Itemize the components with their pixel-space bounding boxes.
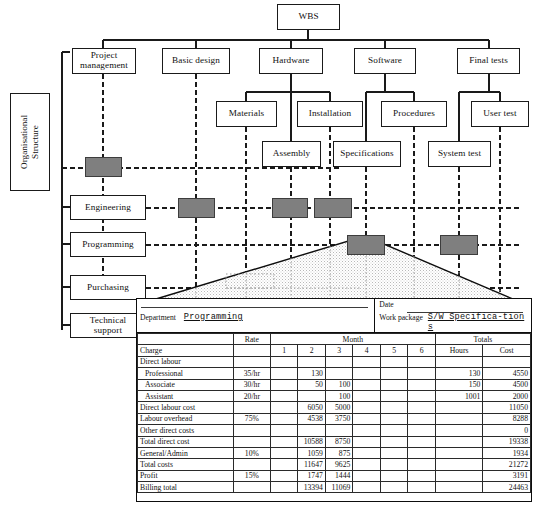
row-cost[interactable]: 1934 <box>483 447 531 458</box>
matrix-cell[interactable] <box>178 198 215 218</box>
row-cost[interactable]: 11050 <box>483 402 531 413</box>
row-rate[interactable] <box>233 356 270 367</box>
row-month-6[interactable] <box>408 447 436 458</box>
row-month-5[interactable] <box>380 470 408 481</box>
row-rate[interactable]: 30/hr <box>233 379 270 390</box>
row-hours[interactable] <box>435 447 483 458</box>
row-hours[interactable]: 1001 <box>435 390 483 401</box>
row-month-3[interactable]: 3750 <box>325 413 353 424</box>
row-month-4[interactable] <box>353 368 381 379</box>
row-month-2[interactable]: 130 <box>298 368 326 379</box>
row-month-4[interactable] <box>353 447 381 458</box>
wbs-root-node[interactable]: WBS <box>277 4 340 30</box>
row-cost[interactable]: 2000 <box>483 390 531 401</box>
row-cost[interactable]: 0 <box>483 425 531 436</box>
row-month-1[interactable] <box>270 436 298 447</box>
row-hours[interactable] <box>435 482 483 493</box>
row-cost[interactable]: 3191 <box>483 470 531 481</box>
row-hours[interactable] <box>435 436 483 447</box>
wbs-node-basic-design[interactable]: Basic design <box>162 48 230 74</box>
row-month-4[interactable] <box>353 436 381 447</box>
row-month-4[interactable] <box>353 402 381 413</box>
row-month-3[interactable]: 9625 <box>325 459 353 470</box>
org-unit-purchasing[interactable]: Purchasing <box>70 275 146 300</box>
row-month-5[interactable] <box>380 436 408 447</box>
row-month-6[interactable] <box>408 459 436 470</box>
row-month-6[interactable] <box>408 436 436 447</box>
wbs-node-system-test[interactable]: System test <box>428 141 491 167</box>
row-month-4[interactable] <box>353 390 381 401</box>
row-month-3[interactable]: 11069 <box>325 482 353 493</box>
row-month-6[interactable] <box>408 425 436 436</box>
row-month-6[interactable] <box>408 482 436 493</box>
row-cost[interactable]: 4500 <box>483 379 531 390</box>
wbs-node-software[interactable]: Software <box>354 48 416 74</box>
work-package-cost-form[interactable]: Department Programming Date Work package… <box>136 298 532 502</box>
row-month-3[interactable]: 5000 <box>325 402 353 413</box>
wbs-node-final-tests[interactable]: Final tests <box>457 48 520 74</box>
row-month-5[interactable] <box>380 413 408 424</box>
row-month-6[interactable] <box>408 413 436 424</box>
row-hours[interactable] <box>435 459 483 470</box>
row-cost[interactable]: 24463 <box>483 482 531 493</box>
org-unit-engineering[interactable]: Engineering <box>70 195 146 220</box>
wbs-node-specifications[interactable]: Specifications <box>333 141 401 167</box>
matrix-cell[interactable] <box>272 198 308 218</box>
row-month-2[interactable] <box>298 390 326 401</box>
row-month-6[interactable] <box>408 368 436 379</box>
row-month-5[interactable] <box>380 379 408 390</box>
row-hours[interactable] <box>435 356 483 367</box>
row-month-3[interactable]: 100 <box>325 379 353 390</box>
row-rate[interactable]: 35/hr <box>233 368 270 379</box>
org-unit-technical-support[interactable]: Technical support <box>70 313 146 338</box>
row-month-1[interactable] <box>270 425 298 436</box>
row-month-2[interactable]: 1747 <box>298 470 326 481</box>
row-month-5[interactable] <box>380 390 408 401</box>
matrix-cell[interactable] <box>440 235 478 255</box>
row-month-1[interactable] <box>270 368 298 379</box>
row-hours[interactable]: 130 <box>435 368 483 379</box>
row-rate[interactable]: 15% <box>233 470 270 481</box>
matrix-cell[interactable] <box>314 198 352 218</box>
row-hours[interactable] <box>435 413 483 424</box>
row-month-5[interactable] <box>380 447 408 458</box>
row-month-1[interactable] <box>270 413 298 424</box>
row-month-3[interactable]: 1444 <box>325 470 353 481</box>
matrix-cell[interactable] <box>347 235 385 255</box>
row-month-5[interactable] <box>380 402 408 413</box>
wbs-node-hardware[interactable]: Hardware <box>259 48 323 74</box>
row-month-4[interactable] <box>353 482 381 493</box>
row-month-3[interactable]: 875 <box>325 447 353 458</box>
row-month-6[interactable] <box>408 356 436 367</box>
row-month-5[interactable] <box>380 368 408 379</box>
row-month-3[interactable] <box>325 356 353 367</box>
wbs-node-procedures[interactable]: Procedures <box>381 101 447 127</box>
row-month-4[interactable] <box>353 356 381 367</box>
wbs-node-materials[interactable]: Materials <box>216 101 277 127</box>
row-month-2[interactable] <box>298 425 326 436</box>
wbs-node-user-test[interactable]: User test <box>471 101 529 127</box>
date-workpackage-cell[interactable]: Date Work package S/W Specifica-tions <box>375 299 531 332</box>
row-month-6[interactable] <box>408 470 436 481</box>
department-value[interactable]: Programming <box>184 312 243 322</box>
row-hours[interactable] <box>435 470 483 481</box>
row-month-3[interactable]: 100 <box>325 390 353 401</box>
row-month-2[interactable]: 10588 <box>298 436 326 447</box>
row-month-6[interactable] <box>408 390 436 401</box>
row-month-1[interactable] <box>270 356 298 367</box>
row-hours[interactable] <box>435 425 483 436</box>
row-month-4[interactable] <box>353 470 381 481</box>
row-month-2[interactable] <box>298 356 326 367</box>
row-month-1[interactable] <box>270 459 298 470</box>
row-rate[interactable] <box>233 436 270 447</box>
row-rate[interactable]: 75% <box>233 413 270 424</box>
row-month-3[interactable] <box>325 368 353 379</box>
row-month-1[interactable] <box>270 470 298 481</box>
row-cost[interactable]: 19338 <box>483 436 531 447</box>
row-cost[interactable] <box>483 356 531 367</box>
row-month-2[interactable]: 1059 <box>298 447 326 458</box>
row-month-6[interactable] <box>408 379 436 390</box>
row-month-2[interactable]: 4538 <box>298 413 326 424</box>
org-unit-programming[interactable]: Programming <box>70 232 146 257</box>
row-cost[interactable]: 8288 <box>483 413 531 424</box>
